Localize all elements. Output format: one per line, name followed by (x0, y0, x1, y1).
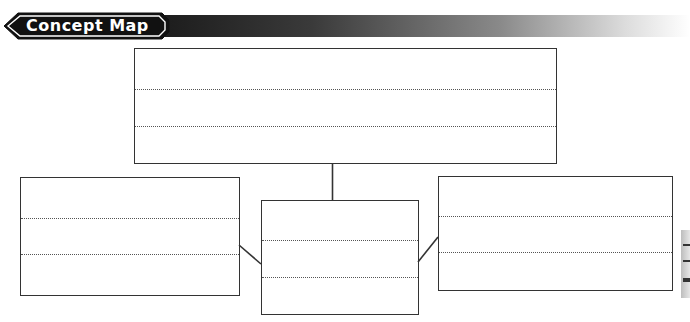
center-concept-line-1[interactable] (264, 206, 416, 238)
page-title: Concept Map (26, 16, 149, 36)
main-concept-line-2[interactable] (137, 93, 554, 125)
writing-line-divider (262, 240, 418, 241)
left-concept-line-2[interactable] (23, 222, 237, 254)
left-concept-box (20, 177, 240, 296)
writing-line-divider (21, 218, 239, 219)
main-concept-box (134, 48, 557, 164)
left-concept-line-1[interactable] (23, 184, 237, 216)
tab-mark (683, 278, 690, 282)
title-banner: Concept Map (4, 12, 170, 40)
center-concept-line-2[interactable] (264, 244, 416, 276)
main-concept-line-3[interactable] (137, 129, 554, 161)
tab-mark (683, 244, 690, 246)
right-concept-box (438, 176, 673, 291)
page-edge-tab (681, 230, 690, 298)
connector-left-to-center (239, 245, 261, 264)
left-concept-line-3[interactable] (23, 258, 237, 290)
writing-line-divider (135, 126, 556, 127)
right-concept-line-3[interactable] (441, 255, 670, 287)
connector-center-to-right (418, 237, 438, 262)
header-gradient-bar (150, 15, 690, 37)
writing-line-divider (439, 216, 672, 217)
right-concept-line-2[interactable] (441, 220, 670, 252)
writing-line-divider (21, 254, 239, 255)
writing-line-divider (135, 89, 556, 90)
tab-mark (683, 260, 690, 262)
center-concept-box (261, 200, 419, 315)
writing-line-divider (262, 277, 418, 278)
center-concept-line-3[interactable] (264, 280, 416, 312)
writing-line-divider (439, 252, 672, 253)
main-concept-line-1[interactable] (137, 55, 554, 87)
right-concept-line-1[interactable] (441, 182, 670, 214)
